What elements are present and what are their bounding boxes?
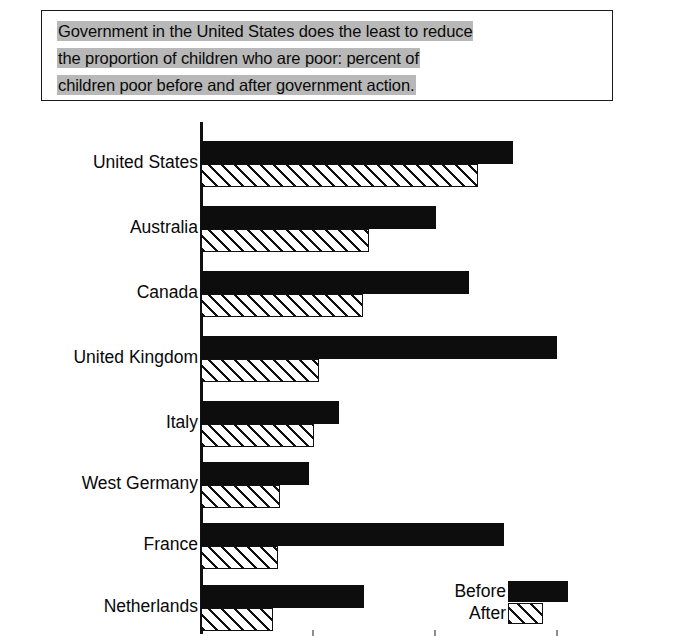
bar-after [201,546,278,569]
bar-chart: United States Australia Canada United Ki… [0,0,699,636]
chart-legend: Before After [430,580,610,626]
category-label: United Kingdom [28,346,198,368]
category-label: Netherlands [28,595,198,617]
x-axis-tick [556,630,558,636]
bar-after [201,359,319,382]
bar-before [201,271,469,294]
chart-row: United States [0,141,699,191]
chart-row: France [0,523,699,573]
x-axis-tick [312,630,314,636]
legend-label-after: After [430,602,506,624]
bar-before [201,206,436,229]
bar-after [201,424,314,447]
chart-row: Canada [0,271,699,321]
x-axis-tick [434,630,436,636]
category-label: West Germany [28,472,198,494]
bar-before [201,585,364,608]
bar-before [201,336,557,359]
bar-before [201,401,339,424]
category-label: France [28,533,198,555]
category-label: Australia [28,216,198,238]
legend-swatch-before [508,581,568,602]
chart-row: United Kingdom [0,336,699,386]
legend-swatch-after [508,603,543,624]
legend-row-after: After [430,602,610,624]
bar-before [201,462,309,485]
bar-after [201,164,478,187]
chart-row: Italy [0,401,699,451]
bar-after [201,608,273,631]
category-label: Canada [28,281,198,303]
category-label: United States [28,151,198,173]
chart-row: West Germany [0,462,699,512]
bar-after [201,294,363,317]
bar-before [201,523,504,546]
legend-label-before: Before [430,580,506,602]
bar-after [201,229,369,252]
bar-after [201,485,280,508]
legend-row-before: Before [430,580,610,602]
chart-row: Australia [0,206,699,256]
bar-before [201,141,513,164]
category-label: Italy [28,411,198,433]
